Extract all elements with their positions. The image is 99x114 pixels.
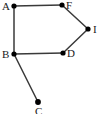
graph-node-f <box>59 2 64 7</box>
node-label-f: F <box>66 0 72 11</box>
graph-node-d <box>60 50 65 55</box>
edge-layer <box>14 5 88 102</box>
node-label-b: B <box>2 49 9 60</box>
graph-node-i <box>85 26 90 31</box>
graph-canvas <box>0 0 99 114</box>
node-label-a: A <box>2 1 10 12</box>
node-label-d: D <box>67 48 75 59</box>
graph-edge-a-f <box>14 5 62 6</box>
graph-node-b <box>11 51 16 56</box>
graph-figure: AFIDBC <box>0 0 99 114</box>
graph-edge-b-c <box>14 54 38 102</box>
node-label-i: I <box>93 24 97 35</box>
graph-node-a <box>11 3 16 8</box>
node-label-c: C <box>35 106 42 114</box>
graph-edge-b-d <box>14 53 63 54</box>
